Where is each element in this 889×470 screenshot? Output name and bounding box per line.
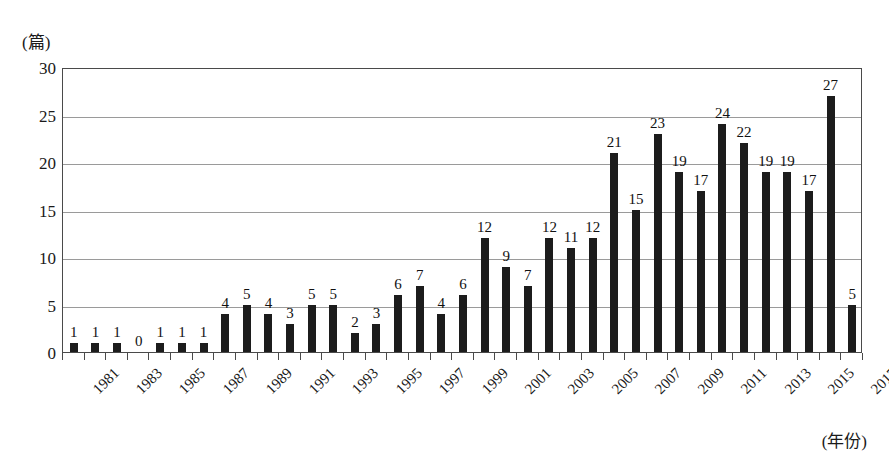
bar [156,343,164,353]
x-axis-tick-label: 1993 [350,365,382,397]
bar-value-label: 21 [607,135,622,150]
x-axis-tick [84,353,85,360]
x-axis-unit-label: (年份) [822,427,867,452]
y-axis-tick-label: 5 [8,297,56,314]
bar [459,295,467,352]
x-axis-tick [646,353,647,360]
bar-slot: 1 [193,69,215,352]
bar-slot: 4 [431,69,453,352]
x-axis-tick [300,353,301,360]
x-axis-tick-label: 1981 [90,365,122,397]
bar [243,305,251,353]
bar-value-label: 12 [585,220,600,235]
bar-value-label: 24 [715,106,730,121]
bar [805,191,813,353]
bar [481,238,489,352]
x-axis-tick [105,353,106,360]
x-axis-tick-label: 1991 [306,365,338,397]
x-axis-tick-label: 1999 [479,365,511,397]
bar-value-label: 5 [330,287,338,302]
bar-value-label: 1 [200,325,208,340]
x-axis-tick [624,353,625,360]
x-axis-tick [581,353,582,360]
x-axis-tick [559,353,560,360]
x-axis-tick [257,353,258,360]
x-axis-tick [235,353,236,360]
bar-slot: 1 [85,69,107,352]
bar-slot: 9 [495,69,517,352]
bar-slot: 15 [625,69,647,352]
bar [762,172,770,353]
x-axis-tick [343,353,344,360]
bar-value-label: 1 [92,325,100,340]
bar-slot: 19 [668,69,690,352]
bar-slot: 23 [647,69,669,352]
bar [675,172,683,353]
x-axis-tick [386,353,387,360]
bar-slot: 27 [820,69,842,352]
bar-value-label: 1 [157,325,165,340]
bar-slot: 1 [63,69,85,352]
bar [740,143,748,352]
bar-slot: 2 [344,69,366,352]
bar-slot: 17 [690,69,712,352]
bar [610,153,618,353]
x-axis-tick [689,353,690,360]
x-axis-tick [192,353,193,360]
x-axis-tick [213,353,214,360]
bar [200,343,208,353]
x-axis-tick [278,353,279,360]
x-axis-tick [603,353,604,360]
x-axis-tick [430,353,431,360]
x-axis-tick [321,353,322,360]
bar-slot: 12 [474,69,496,352]
y-axis-tick-label: 30 [8,60,56,77]
bar-slot: 4 [258,69,280,352]
y-axis-tick-label: 25 [8,107,56,124]
x-axis-tick [840,353,841,360]
x-axis-tick [667,353,668,360]
bar [632,210,640,353]
bar [848,305,856,353]
bar [394,295,402,352]
x-axis-tick [408,353,409,360]
bar-slot: 17 [798,69,820,352]
bar-value-label: 27 [823,78,838,93]
bar-value-label: 5 [243,287,251,302]
x-axis-tick [819,353,820,360]
bar-slot: 21 [604,69,626,352]
bar-slot: 22 [733,69,755,352]
x-axis-tick [732,353,733,360]
bar [178,343,186,353]
bar [502,267,510,353]
bar-slot: 19 [777,69,799,352]
bar-value-label: 3 [373,306,381,321]
bar-value-label: 1 [178,325,186,340]
bar-value-label: 6 [459,277,467,292]
bar-value-label: 0 [135,334,143,349]
x-axis-tick-label: 2009 [696,365,728,397]
bar-value-label: 19 [758,154,773,169]
bar-value-label: 3 [286,306,294,321]
x-axis-tick [862,353,863,360]
x-axis-tick-label: 2001 [523,365,555,397]
bar [264,314,272,352]
x-axis-tick-label: 1985 [177,365,209,397]
x-axis-tick [494,353,495,360]
bar [697,191,705,353]
bar-chart-figure: (篇) 051015202530 11101114543552367461297… [0,0,889,470]
x-axis-tick [711,353,712,360]
bar [91,343,99,353]
bar-value-label: 5 [308,287,316,302]
bar-value-label: 7 [416,268,424,283]
bar [70,343,78,353]
bar-value-label: 1 [113,325,121,340]
x-axis-tick-label: 2017 [869,365,889,397]
x-axis-tick [797,353,798,360]
x-axis-tick-label: 2007 [652,365,684,397]
x-axis-tick-label: 2015 [825,365,857,397]
x-axis-tick-label: 2003 [566,365,598,397]
bar-value-label: 6 [394,277,402,292]
bar-slot: 5 [236,69,258,352]
bar [286,324,294,353]
